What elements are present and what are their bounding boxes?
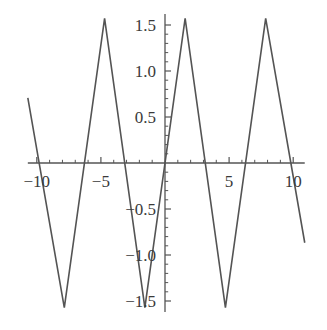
x-tick-label: 10 [285,172,302,191]
x-tick-label: 5 [225,172,234,191]
x-tick-label: −5 [92,172,110,191]
y-tick-label: 1.0 [135,62,156,81]
y-tick-label: −0.5 [125,200,156,219]
y-tick-label: −1.0 [125,246,156,265]
chart-canvas: 1.51.00.5−0.5−1.0−1.5−10−5510 [0,0,327,330]
y-tick-label: 0.5 [135,108,156,127]
plot-figure: 1.51.00.5−0.5−1.0−1.5−10−5510 [0,0,327,330]
y-tick-label: −1.5 [125,292,156,311]
x-tick-label: −10 [24,172,51,191]
y-tick-label: 1.5 [135,16,156,35]
